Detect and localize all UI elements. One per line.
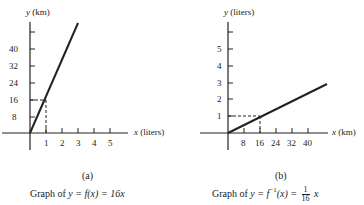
b-caption-end: x	[312, 188, 319, 199]
a-panel-label: (a)	[82, 171, 93, 181]
a-function-line	[30, 23, 78, 133]
b-ytick-4: 4	[217, 62, 222, 71]
a-caption-expr: y = f(x) = 16x	[68, 188, 124, 199]
b-xtick-8: 8	[241, 139, 246, 148]
a-ytick-32: 32	[9, 62, 18, 71]
a-xtick-1: 1	[44, 139, 49, 148]
b-ytick-3: 3	[217, 79, 222, 88]
a-xtick-2: 2	[60, 139, 65, 148]
a-xtick-3: 3	[76, 139, 81, 148]
b-xtick-40: 40	[303, 139, 312, 148]
a-xtick-4: 4	[92, 139, 97, 148]
b-ytick-5: 5	[217, 45, 222, 54]
b-xtick-16: 16	[255, 139, 264, 148]
b-caption-mid: (x) =	[277, 188, 300, 199]
b-panel-label: (b)	[275, 171, 287, 181]
b-x-axis-label: x (km)	[332, 128, 356, 137]
a-xlabel-unit: (liters)	[138, 127, 164, 137]
a-y-axis-label: y (km)	[26, 8, 50, 17]
b-frac-den: 16	[302, 195, 310, 203]
b-xlabel-unit: (km)	[336, 127, 356, 137]
chart-a	[2, 22, 128, 150]
b-ytick-2: 2	[217, 95, 222, 104]
a-ytick-16: 16	[9, 96, 18, 105]
b-xtick-32: 32	[287, 139, 296, 148]
a-caption-prefix: Graph of	[30, 188, 68, 199]
b-xtick-24: 24	[271, 139, 280, 148]
b-caption-expr: y = f	[250, 188, 269, 199]
a-ylabel-unit: (km)	[30, 7, 50, 17]
b-ytick-1: 1	[217, 112, 222, 121]
b-caption-sup: −1	[269, 186, 276, 194]
a-caption: Graph of y = f(x) = 16x	[30, 189, 125, 199]
b-y-axis-label: y (liters)	[224, 8, 254, 17]
b-function-line	[228, 84, 327, 133]
a-ytick-40: 40	[9, 45, 18, 54]
b-caption: Graph of y = f−1(x) = 116 x	[212, 186, 319, 203]
a-ytick-24: 24	[9, 79, 18, 88]
b-caption-prefix: Graph of	[212, 188, 250, 199]
chart-canvas	[0, 0, 364, 205]
a-xtick-5: 5	[108, 139, 113, 148]
a-x-axis-label: x (liters)	[134, 128, 164, 137]
a-ytick-8: 8	[12, 113, 17, 122]
b-ylabel-unit: (liters)	[228, 7, 254, 17]
b-caption-fraction: 116	[302, 186, 310, 203]
